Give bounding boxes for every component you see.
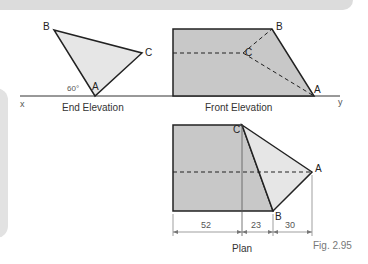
front-point-c: C [245, 47, 252, 58]
front-point-a: A [314, 84, 321, 95]
orthographic-projection-drawing [0, 0, 368, 264]
plan-point-a: A [315, 163, 322, 174]
end-point-c: C [145, 47, 152, 58]
end-point-b: B [43, 21, 50, 32]
front-elevation-title: Front Elevation [205, 102, 272, 113]
plan-point-b: B [275, 211, 282, 222]
end-point-a: A [92, 81, 99, 92]
front-point-b: B [276, 21, 283, 32]
dimension-52: 52 [201, 220, 211, 230]
end-elevation-title: End Elevation [62, 102, 124, 113]
y-axis-label: y [338, 97, 343, 107]
plan-point-c: C [233, 124, 240, 135]
dimension-30: 30 [285, 220, 295, 230]
plan-title: Plan [232, 243, 252, 254]
angle-label: 60° [67, 84, 79, 93]
x-axis-label: x [20, 99, 25, 109]
front-elevation-shape [173, 29, 314, 96]
dimension-23: 23 [251, 220, 261, 230]
figure-caption: Fig. 2.95 [313, 240, 352, 251]
